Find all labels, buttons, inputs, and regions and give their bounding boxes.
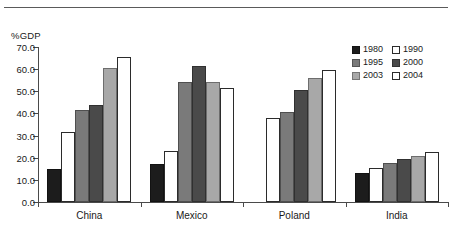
bar-group-bars — [141, 47, 244, 202]
bar — [192, 66, 206, 202]
bar — [425, 152, 439, 202]
legend-entry: 1990 — [392, 45, 423, 54]
y-tick-label: 70.0 — [17, 42, 36, 53]
legend-swatch-icon — [392, 59, 400, 67]
x-tick — [38, 202, 39, 207]
bar — [178, 82, 192, 202]
legend-label: 2004 — [403, 71, 423, 80]
legend-label: 1980 — [363, 45, 383, 54]
bar — [322, 70, 336, 202]
bar — [220, 88, 234, 202]
bar — [75, 110, 89, 202]
bar — [308, 78, 322, 202]
y-tick-label: 10.0 — [17, 174, 36, 185]
legend-swatch-icon — [352, 72, 360, 80]
bar — [294, 90, 308, 202]
bar — [369, 168, 383, 202]
category-label: China — [76, 210, 102, 221]
y-tick-label: 20.0 — [17, 152, 36, 163]
x-tick — [141, 202, 142, 207]
legend-label: 2000 — [403, 58, 423, 67]
legend-entry: 2000 — [392, 58, 423, 67]
bar-group — [38, 47, 141, 202]
bar-group-bars — [38, 47, 141, 202]
bar — [47, 169, 61, 202]
chart-legend: 198019901995200020032004 — [352, 45, 423, 80]
category-label: Poland — [279, 210, 310, 221]
legend-swatch-icon — [352, 59, 360, 67]
bar-group — [243, 47, 346, 202]
top-divider-rule — [4, 7, 448, 8]
bar — [117, 57, 131, 202]
legend-entry: 1995 — [352, 58, 383, 67]
bar — [206, 82, 220, 202]
bar-chart: %GDP 0.010.020.030.040.050.060.070.0 Chi… — [0, 0, 452, 244]
legend-label: 1990 — [403, 45, 423, 54]
bar — [89, 105, 103, 202]
legend-swatch-icon — [392, 72, 400, 80]
bar — [411, 156, 425, 203]
x-tick — [346, 202, 347, 207]
x-tick — [448, 202, 449, 207]
legend-entry: 2003 — [352, 71, 383, 80]
bar — [164, 151, 178, 202]
bar-group-bars — [243, 47, 346, 202]
bar — [280, 112, 294, 202]
legend-swatch-icon — [352, 46, 360, 54]
x-tick — [243, 202, 244, 207]
bar — [397, 159, 411, 202]
legend-entry: 2004 — [392, 71, 423, 80]
bar-group — [141, 47, 244, 202]
category-label: India — [386, 210, 408, 221]
legend-entry: 1980 — [352, 45, 383, 54]
category-label: Mexico — [176, 210, 208, 221]
legend-swatch-icon — [392, 46, 400, 54]
bar — [150, 164, 164, 202]
y-tick-label: 60.0 — [17, 64, 36, 75]
bar — [61, 132, 75, 202]
bar — [383, 163, 397, 202]
bar — [103, 68, 117, 202]
bar — [355, 173, 369, 202]
y-tick-label: 30.0 — [17, 130, 36, 141]
y-tick-label: 40.0 — [17, 108, 36, 119]
y-tick-label: 50.0 — [17, 86, 36, 97]
legend-label: 2003 — [363, 71, 383, 80]
y-tick-label: 0.0 — [22, 197, 35, 208]
bar — [266, 118, 280, 202]
legend-label: 1995 — [363, 58, 383, 67]
y-axis-title: %GDP — [11, 30, 41, 41]
